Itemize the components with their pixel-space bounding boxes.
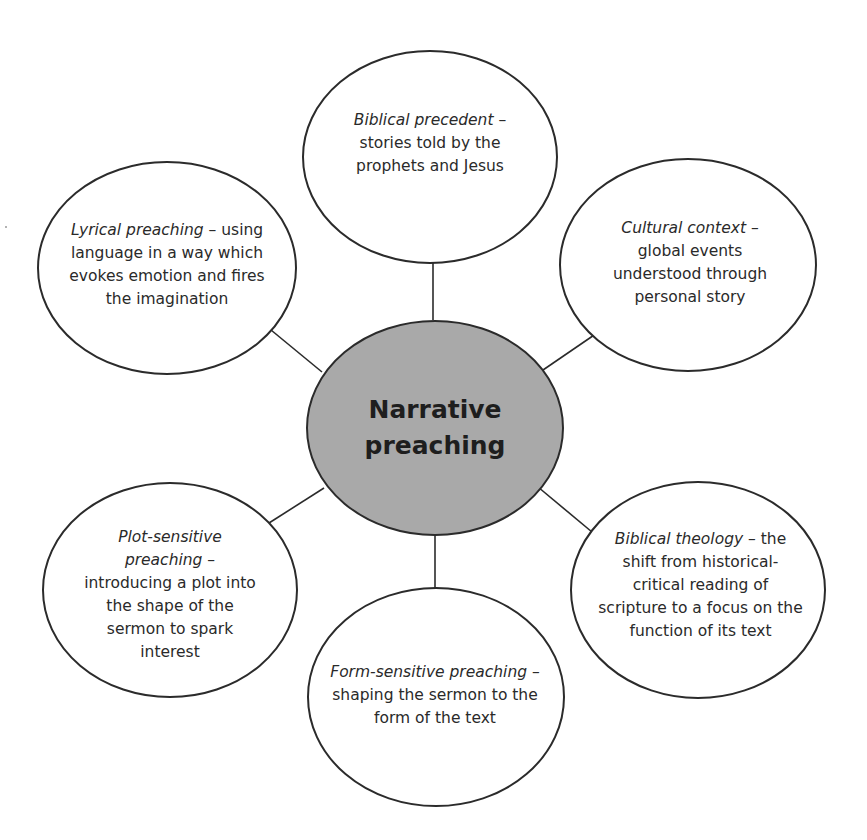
- node-description: global events understood through persona…: [613, 242, 767, 306]
- node-description: stories told by the prophets and Jesus: [356, 134, 504, 175]
- node-lyrical-preaching: Lyrical preaching – using language in a …: [62, 195, 272, 335]
- center-label-line2: preaching: [365, 431, 506, 460]
- node-separator: –: [746, 219, 759, 237]
- node-form-sensitive-preaching: Form-sensitive preaching – shaping the s…: [330, 640, 540, 750]
- node-title: Biblical precedent: [354, 111, 494, 129]
- node-cultural-context: Cultural context – global events underst…: [606, 190, 774, 335]
- node-separator: –: [494, 111, 507, 129]
- node-title: Lyrical preaching: [71, 221, 204, 239]
- node-separator: –: [527, 663, 540, 681]
- node-plot-sensitive-preaching: Plot-sensitive preaching – introducing a…: [80, 520, 260, 670]
- node-description: shaping the sermon to the form of the te…: [332, 686, 537, 727]
- node-title: Cultural context: [621, 219, 746, 237]
- center-node-label: Narrative preaching: [307, 321, 563, 535]
- node-separator: –: [743, 530, 756, 548]
- node-description: introducing a plot into the shape of the…: [84, 574, 256, 661]
- narrative-preaching-diagram: Narrative preaching Biblical precedent –…: [0, 0, 867, 840]
- node-biblical-theology: Biblical theology – the shift from histo…: [598, 510, 803, 660]
- node-title: Form-sensitive preaching: [330, 663, 527, 681]
- node-separator: –: [204, 221, 217, 239]
- node-separator: –: [202, 551, 215, 569]
- scan-speck: [5, 226, 7, 228]
- node-title: Biblical theology: [615, 530, 743, 548]
- node-biblical-precedent: Biblical precedent – stories told by the…: [338, 68, 522, 218]
- center-label-line1: Narrative: [368, 395, 501, 424]
